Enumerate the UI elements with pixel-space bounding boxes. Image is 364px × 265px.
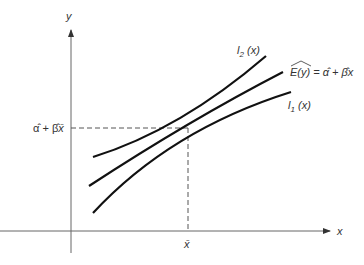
x-bar-tick-label: x̄ [183,238,190,250]
l1-label: l1 (x) [288,99,311,114]
y-axis-label: y [65,10,73,22]
x-axis-label: x [336,225,343,237]
y-tick-label: α̂ + β̂x̄ [33,122,64,134]
l2-label: l2 (x) [237,44,260,59]
regression-diagram: x y l2 (x) E(y) = α̂ + β̂x l1 (x) x̄ α̂ … [0,0,364,265]
fit-label: E(y) = α̂ + β̂x [290,66,354,78]
fitted-regression-line [89,72,283,186]
